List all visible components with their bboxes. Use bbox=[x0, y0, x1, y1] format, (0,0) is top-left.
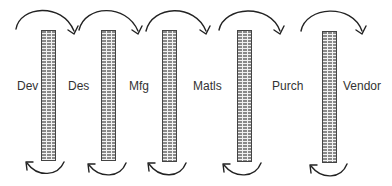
arrows-layer bbox=[0, 0, 392, 186]
curved-arrow-left-icon bbox=[148, 163, 186, 175]
curved-arrow-left-icon bbox=[88, 163, 126, 175]
curved-arrow-right-icon bbox=[79, 11, 142, 34]
curved-arrow-right-icon bbox=[301, 11, 366, 34]
curved-arrow-left-icon bbox=[26, 162, 64, 173]
over-the-wall-diagram: Dev Des Mfg Matls Purch Vendor bbox=[0, 0, 392, 186]
curved-arrow-left-icon bbox=[310, 164, 347, 176]
curved-arrow-left-icon bbox=[223, 163, 261, 175]
curved-arrow-right-icon bbox=[146, 11, 210, 34]
curved-arrow-right-icon bbox=[16, 10, 78, 34]
curved-arrow-right-icon bbox=[219, 11, 284, 34]
